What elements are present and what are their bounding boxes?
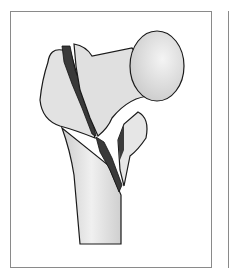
femoral-head xyxy=(130,31,184,101)
femur-fracture-illustration xyxy=(0,0,230,280)
femur-shaft xyxy=(62,128,121,244)
